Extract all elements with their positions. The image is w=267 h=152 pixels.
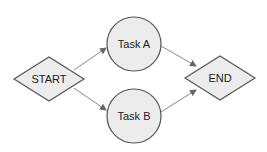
task-b-label: Task B xyxy=(117,110,150,122)
end-label: END xyxy=(208,72,231,84)
flowchart-canvas: START Task A Task B END xyxy=(0,0,267,152)
node-task-a[interactable]: Task A xyxy=(107,17,161,71)
edge-start-to-task-b xyxy=(74,88,106,110)
edge-task-b-to-end xyxy=(161,90,196,112)
node-start[interactable]: START xyxy=(14,57,84,101)
start-label: START xyxy=(31,73,66,85)
task-a-label: Task A xyxy=(118,38,151,50)
node-end[interactable]: END xyxy=(185,56,255,100)
edge-start-to-task-a xyxy=(74,48,106,70)
node-task-b[interactable]: Task B xyxy=(107,89,161,143)
edge-task-a-to-end xyxy=(161,46,196,66)
